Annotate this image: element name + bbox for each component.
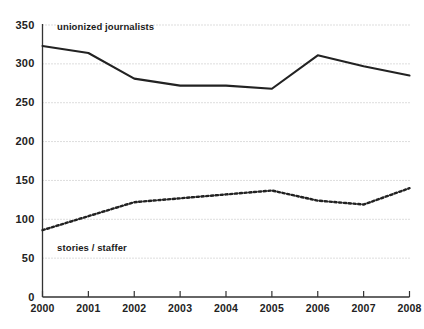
x-tick-label: 2008 <box>387 303 424 314</box>
series-line-2 <box>43 188 410 230</box>
y-tick-label: 50 <box>7 253 35 264</box>
x-tick-label: 2000 <box>20 303 66 314</box>
y-tick-label: 150 <box>7 175 35 186</box>
x-tick-label: 2005 <box>249 303 295 314</box>
series-line-1 <box>43 46 410 89</box>
gridlines <box>43 25 410 258</box>
y-tick-label: 100 <box>7 214 35 225</box>
x-tick-label: 2002 <box>111 303 157 314</box>
x-axis-ticks <box>43 291 410 297</box>
y-tick-label: 250 <box>7 97 35 108</box>
x-tick-label: 2004 <box>203 303 249 314</box>
x-tick-label: 2003 <box>157 303 203 314</box>
x-tick-label: 2001 <box>65 303 111 314</box>
y-tick-label: 0 <box>7 292 35 303</box>
series-label-2: stories / staffer <box>57 242 127 253</box>
x-tick-label: 2007 <box>341 303 387 314</box>
y-tick-label: 350 <box>7 20 35 31</box>
x-tick-label: 2006 <box>295 303 341 314</box>
y-tick-label: 300 <box>7 58 35 69</box>
series-label-1: unionized journalists <box>57 21 154 32</box>
line-chart-canvas <box>0 0 424 329</box>
series-paths <box>43 46 410 230</box>
chart-container: 050100150200250300350 200020012002200320… <box>0 0 424 329</box>
y-tick-label: 200 <box>7 136 35 147</box>
